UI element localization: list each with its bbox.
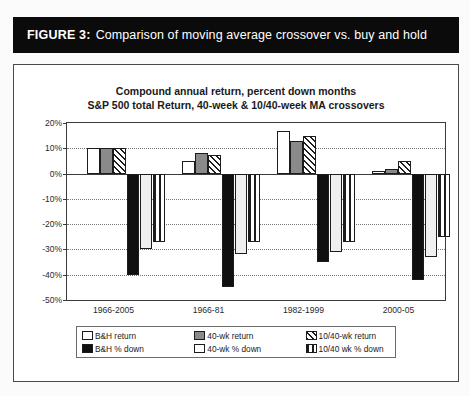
bar-white [277, 131, 290, 174]
bar-white [182, 161, 195, 174]
bar-group [162, 123, 257, 300]
legend-item[interactable]: B&H return [77, 331, 194, 341]
x-axis-label: 1966-2005 [93, 305, 134, 315]
bar-dots [330, 174, 343, 252]
bar-group [67, 123, 162, 300]
y-axis-tick-label: -10% [42, 194, 62, 204]
x-axis-labels: 1966-20051966-811982-19992000-05 [66, 305, 446, 319]
legend-item[interactable]: B&H % down [77, 344, 194, 354]
y-axis-tick-label: -50% [42, 295, 62, 305]
bar-vert [438, 174, 451, 237]
legend-swatch-white [194, 344, 205, 353]
bar-gray [385, 169, 398, 174]
bar-white [87, 148, 100, 173]
bar-diag [303, 136, 316, 174]
y-axis-tick-label: 0% [50, 169, 62, 179]
legend-row: B&H % down40-wk % down10/40 wk % down [77, 342, 395, 355]
figure-label: FIGURE 3: [27, 28, 91, 42]
legend-swatch-white [82, 331, 93, 340]
bar-gray [290, 141, 303, 174]
x-axis-label: 1982-1999 [283, 305, 324, 315]
bar-diag [398, 161, 411, 174]
chart-legend: B&H return40-wk return10/40-wk returnB&H… [76, 326, 396, 358]
bar-group [352, 123, 447, 300]
y-axis-tick-label: 10% [45, 143, 62, 153]
y-axis-tick-label: 20% [45, 118, 62, 128]
legend-label: 10/40 wk % down [319, 344, 384, 354]
x-axis-label: 2000-05 [383, 305, 415, 315]
figure-page: FIGURE 3: Comparison of moving average c… [0, 0, 470, 396]
bar-dots [140, 174, 153, 250]
legend-label: B&H % down [95, 344, 144, 354]
y-axis-tick-label: -30% [42, 244, 62, 254]
legend-swatch-diag [306, 331, 317, 340]
legend-label: 10/40-wk return [319, 331, 377, 341]
legend-label: 40-wk % down [207, 344, 261, 354]
bar-black [412, 174, 425, 280]
bar-diag [113, 148, 126, 173]
y-axis-tick-mark [63, 300, 67, 301]
bar-black [317, 174, 330, 263]
bar-dots [235, 174, 248, 255]
plot-wrapper: 20%10%0%-10%-20%-30%-40%-50% 1966-200519… [14, 65, 460, 383]
legend-item[interactable]: 10/40 wk % down [306, 344, 395, 354]
legend-item[interactable]: 40-wk return [194, 331, 305, 341]
bar-white [372, 171, 385, 174]
legend-label: 40-wk return [207, 331, 253, 341]
figure-banner: FIGURE 3: Comparison of moving average c… [13, 17, 459, 53]
bar-black [222, 174, 235, 288]
chart-container: Compound annual return, percent down mon… [13, 64, 459, 382]
legend-row: B&H return40-wk return10/40-wk return [77, 329, 395, 342]
bar-black [127, 174, 140, 275]
legend-item[interactable]: 40-wk % down [194, 344, 305, 354]
figure-caption: Comparison of moving average crossover v… [96, 28, 427, 42]
legend-swatch-gray [194, 331, 205, 340]
legend-item[interactable]: 10/40-wk return [306, 331, 395, 341]
y-axis-tick-label: -20% [42, 219, 62, 229]
bar-gray [100, 148, 113, 173]
legend-swatch-black [82, 344, 93, 353]
legend-swatch-vert [306, 344, 317, 353]
legend-label: B&H return [95, 331, 136, 341]
bar-group [257, 123, 352, 300]
bar-dots [425, 174, 438, 257]
x-axis-label: 1966-81 [193, 305, 225, 315]
y-axis-tick-label: -40% [42, 270, 62, 280]
bar-diag [208, 155, 221, 174]
plot-area: 20%10%0%-10%-20%-30%-40%-50% [66, 122, 446, 301]
bar-gray [195, 153, 208, 173]
